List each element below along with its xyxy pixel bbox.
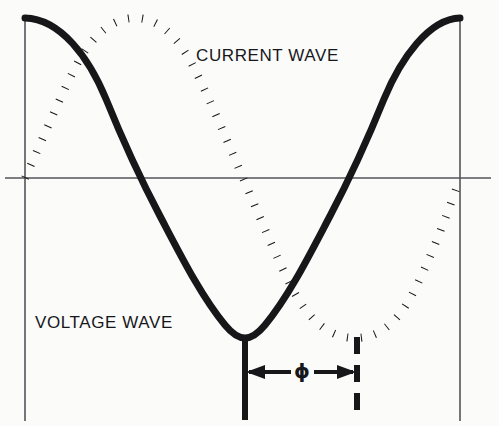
phase-difference-diagram: CURRENT WAVE VOLTAGE WAVE ϕ bbox=[0, 0, 499, 426]
voltage-wave-label: VOLTAGE WAVE bbox=[35, 313, 173, 333]
phase-angle-symbol: ϕ bbox=[291, 360, 314, 382]
current-wave-label: CURRENT WAVE bbox=[196, 46, 339, 66]
phase-arrow-head-right bbox=[337, 365, 356, 379]
phase-arrow-head-left bbox=[246, 365, 265, 379]
